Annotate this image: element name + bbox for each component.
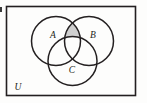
set-label-c: C — [69, 65, 76, 75]
universal-set-label: U — [15, 82, 23, 92]
venn-diagram-canvas: A B C U — [0, 0, 147, 103]
set-label-b: B — [90, 30, 96, 40]
venn-diagram-figure: A B C U — [0, 0, 147, 103]
set-label-a: A — [49, 30, 56, 40]
